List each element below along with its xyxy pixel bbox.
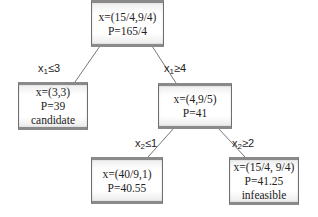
node-right-left-p: P=40.55 xyxy=(108,181,147,195)
edge-label-right-right: x2≥2 xyxy=(232,137,254,151)
node-left-status: candidate xyxy=(31,113,75,127)
node-right: x=(4,9/5) P=41 xyxy=(158,83,232,129)
node-right-left: x=(40/9,1) P=40.55 xyxy=(91,157,163,204)
edge-root-left xyxy=(75,46,100,82)
edge-label-root-right: x1≥4 xyxy=(164,62,186,76)
node-right-x: x=(4,9/5) xyxy=(173,92,216,106)
node-right-left-x: x=(40/9,1) xyxy=(103,167,152,181)
node-root-x: x=(15/4,9/4) xyxy=(99,10,157,24)
edge-label-root-left: x1≤3 xyxy=(38,62,60,76)
node-left-x: x=(3,3) xyxy=(36,85,70,99)
node-root-p: P=165/4 xyxy=(108,24,147,38)
node-right-right-status: infeasible xyxy=(242,188,287,202)
node-right-right-x: x=(15/4, 9/4) xyxy=(234,160,295,174)
edge-label-right-left: x2≤1 xyxy=(135,137,157,151)
node-right-right: x=(15/4, 9/4) P=41.25 infeasible xyxy=(229,157,299,205)
node-right-right-p: P=41.25 xyxy=(245,174,284,188)
node-right-p: P=41 xyxy=(183,106,207,120)
node-left: x=(3,3) P=39 candidate xyxy=(18,82,88,130)
node-left-p: P=39 xyxy=(41,99,65,113)
node-root: x=(15/4,9/4) P=165/4 xyxy=(91,0,164,47)
